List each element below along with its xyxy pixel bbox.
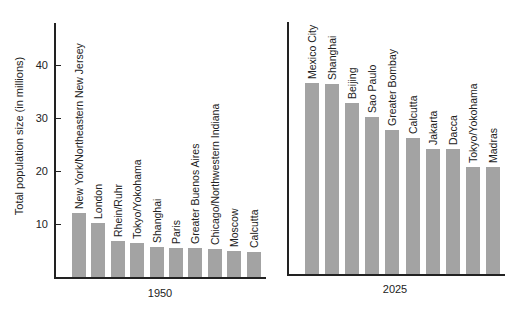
bar	[365, 117, 379, 274]
bar-label: Chicago/Northwestern Indiana	[209, 104, 221, 245]
bar	[466, 167, 480, 274]
bar	[305, 83, 319, 274]
bar-label: London	[92, 184, 104, 219]
bar-label: Mexico City	[306, 25, 318, 79]
left-x-label: 1950	[148, 287, 172, 299]
bar-label: Paris	[170, 220, 182, 244]
bar	[130, 243, 144, 277]
bar-label: Shanghai	[151, 199, 163, 243]
bar	[150, 247, 164, 277]
bar-label: Tokyo/Yokohama	[131, 159, 143, 239]
bar	[325, 84, 339, 274]
y-tick-label: 20	[24, 165, 48, 177]
y-tick	[55, 224, 61, 225]
bar-label: New York/Northeastern New Jersey	[73, 43, 85, 209]
right-x-label: 2025	[383, 283, 407, 295]
bar	[247, 252, 261, 277]
bar-label: Sao Paulo	[366, 65, 378, 113]
bar-label: Calcutta	[407, 95, 419, 134]
y-tick-label: 10	[24, 218, 48, 230]
bar-label: Shanghai	[326, 36, 338, 80]
bar-label: Tokyo/Yokohama	[467, 83, 479, 163]
left-x-axis	[54, 277, 266, 279]
bar-label: Calcutta	[248, 209, 260, 248]
bar-label: Beijing	[346, 67, 358, 99]
right-x-axis	[287, 274, 505, 276]
bar-label: Madras	[487, 128, 499, 163]
bar	[406, 138, 420, 274]
y-tick	[55, 65, 61, 66]
y-tick-label: 40	[24, 59, 48, 71]
right-y-axis	[287, 22, 289, 275]
bar	[227, 251, 241, 277]
bar	[91, 223, 105, 277]
bar	[426, 149, 440, 274]
bar-label: Greater Buenos Aires	[189, 143, 201, 243]
left-y-axis	[54, 23, 56, 278]
y-axis-label: Total population size (in millions)	[13, 57, 25, 215]
bar-label: Greater Bombay	[386, 49, 398, 126]
bar	[111, 241, 125, 277]
bar	[345, 103, 359, 274]
bar	[208, 249, 222, 277]
y-tick	[55, 118, 61, 119]
bar	[385, 130, 399, 274]
bar	[169, 248, 183, 277]
bar	[188, 248, 202, 277]
bar-label: Dacca	[447, 115, 459, 145]
bar	[486, 167, 500, 274]
y-tick	[55, 171, 61, 172]
bar	[446, 149, 460, 274]
bar	[72, 213, 86, 277]
bar-label: Jakarta	[427, 110, 439, 144]
y-tick-label: 30	[24, 112, 48, 124]
bar-label: Moscow	[228, 209, 240, 248]
bar-label: Rhein/Ruhr	[112, 184, 124, 237]
